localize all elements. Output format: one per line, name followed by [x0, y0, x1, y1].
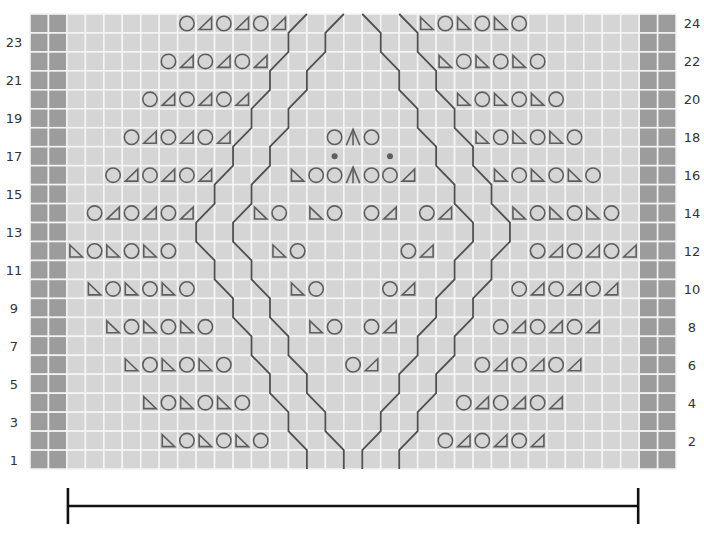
row-number-left: 21	[6, 73, 23, 88]
cell	[270, 450, 288, 469]
edge-cell	[48, 355, 66, 374]
cell	[344, 185, 362, 204]
cell	[288, 33, 306, 52]
cell	[196, 109, 214, 128]
cell	[270, 185, 288, 204]
cell	[510, 242, 528, 261]
cell	[67, 204, 85, 223]
cell	[602, 298, 620, 317]
cell	[288, 298, 306, 317]
cell	[67, 14, 85, 33]
cell	[122, 71, 140, 90]
row-number-left: 5	[10, 377, 18, 392]
edge-cell	[658, 166, 676, 185]
cell	[252, 71, 270, 90]
cell	[547, 71, 565, 90]
cell	[67, 260, 85, 279]
cell	[436, 317, 454, 336]
cell	[547, 431, 565, 450]
cell	[104, 223, 122, 242]
cell	[252, 336, 270, 355]
cell	[473, 317, 491, 336]
edge-cell	[658, 412, 676, 431]
cell	[85, 109, 103, 128]
cell	[159, 223, 177, 242]
chart-grid	[30, 14, 676, 469]
cell	[528, 336, 546, 355]
cell	[67, 109, 85, 128]
cell	[325, 109, 343, 128]
cell	[528, 14, 546, 33]
cell	[399, 412, 417, 431]
edge-cell	[30, 128, 48, 147]
cell	[418, 185, 436, 204]
cell	[104, 260, 122, 279]
cell	[141, 298, 159, 317]
cell	[565, 14, 583, 33]
cell	[584, 223, 602, 242]
cell	[492, 412, 510, 431]
cell	[252, 298, 270, 317]
cell	[602, 317, 620, 336]
cell	[381, 374, 399, 393]
cell	[399, 52, 417, 71]
cell	[270, 33, 288, 52]
cell	[270, 412, 288, 431]
cell	[141, 52, 159, 71]
edge-cell	[658, 223, 676, 242]
cell	[399, 71, 417, 90]
cell	[252, 33, 270, 52]
cell	[528, 412, 546, 431]
cell	[381, 298, 399, 317]
edge-cell	[639, 393, 657, 412]
cell	[159, 412, 177, 431]
cell	[104, 33, 122, 52]
cell	[159, 33, 177, 52]
cell	[344, 260, 362, 279]
cell	[621, 109, 639, 128]
cell	[85, 412, 103, 431]
cell	[252, 260, 270, 279]
row-number-right: 24	[684, 16, 701, 31]
cell	[178, 450, 196, 469]
cell	[602, 355, 620, 374]
cell	[473, 185, 491, 204]
cell	[584, 90, 602, 109]
edge-cell	[30, 204, 48, 223]
cell	[141, 412, 159, 431]
cell	[362, 223, 380, 242]
cell	[510, 260, 528, 279]
cell	[344, 431, 362, 450]
cell	[270, 109, 288, 128]
cell	[436, 147, 454, 166]
row-number-left: 17	[6, 149, 23, 164]
cell	[528, 223, 546, 242]
cell	[621, 71, 639, 90]
edge-cell	[658, 128, 676, 147]
cell	[141, 33, 159, 52]
cell	[325, 412, 343, 431]
edge-cell	[30, 90, 48, 109]
cell	[418, 412, 436, 431]
cell	[344, 242, 362, 261]
cell	[159, 71, 177, 90]
cell	[399, 204, 417, 223]
cell	[159, 298, 177, 317]
cell	[602, 71, 620, 90]
edge-cell	[639, 431, 657, 450]
row-number-right: 8	[688, 320, 696, 335]
cell	[344, 109, 362, 128]
cell	[141, 431, 159, 450]
cell	[399, 33, 417, 52]
row-number-right: 18	[684, 130, 701, 145]
cell	[455, 260, 473, 279]
cell	[288, 336, 306, 355]
cell	[418, 166, 436, 185]
edge-cell	[30, 336, 48, 355]
cell	[621, 185, 639, 204]
cell	[362, 412, 380, 431]
cell	[233, 223, 251, 242]
cell	[270, 90, 288, 109]
cell	[621, 431, 639, 450]
edge-cell	[30, 33, 48, 52]
